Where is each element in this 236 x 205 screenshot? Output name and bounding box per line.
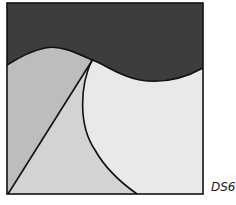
diagram-label: DS6 <box>211 180 236 194</box>
diagram-canvas <box>0 0 236 205</box>
